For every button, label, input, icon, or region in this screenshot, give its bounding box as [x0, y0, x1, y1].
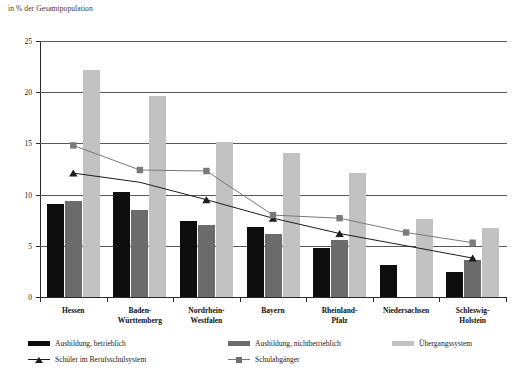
x-axis-label-4: Rheinland-Pfalz — [306, 306, 373, 326]
y-tick-label: 5 — [6, 242, 32, 251]
y-tick-label: 20 — [6, 88, 32, 97]
x-axis-label-6: Schleswig-Holstein — [439, 306, 506, 326]
x-axis-label-3: Bayern — [240, 306, 307, 316]
triangle-icon — [35, 357, 43, 363]
legend-marker-icon — [228, 356, 250, 364]
bar-2 — [265, 234, 282, 297]
x-tick-mark — [107, 298, 108, 302]
bar-1 — [380, 265, 397, 297]
legend-label: Übergangssystem — [419, 339, 472, 348]
y-axis-title: in % der Gesamtpopulation — [8, 4, 93, 13]
legend-marker-icon — [28, 356, 50, 364]
x-tick-mark — [173, 298, 174, 302]
legend-swatch-icon — [392, 341, 414, 346]
x-axis-label-5: Niedersachsen — [373, 306, 440, 316]
x-tick-mark — [306, 298, 307, 302]
bar-2 — [198, 225, 215, 297]
legend-label: Schulabgänger — [255, 355, 300, 364]
x-tick-mark — [40, 298, 41, 302]
x-tick-mark — [240, 298, 241, 302]
bar-2 — [65, 201, 82, 297]
legend-item-2[interactable]: Übergangssystem — [392, 339, 472, 348]
bar-3 — [349, 173, 366, 297]
plot-area — [40, 41, 506, 297]
chart-legend: Ausbildung, betrieblichAusbildung, nicht… — [0, 337, 516, 379]
y-tick-label: 25 — [6, 37, 32, 46]
legend-item-3[interactable]: Schüler im Berufsschulsystem — [28, 355, 146, 364]
legend-item-1[interactable]: Ausbildung, nichtbetrieblich — [228, 339, 341, 348]
x-tick-mark — [373, 298, 374, 302]
y-tick-label: 0 — [6, 293, 32, 302]
legend-label: Ausbildung, nichtbetrieblich — [255, 339, 341, 348]
x-tick-mark — [506, 298, 507, 302]
x-axis-label-0: Hessen — [40, 306, 107, 316]
bar-1 — [247, 227, 264, 297]
legend-swatch-icon — [228, 341, 250, 346]
bar-3 — [283, 153, 300, 297]
bar-3 — [83, 70, 100, 297]
legend-item-0[interactable]: Ausbildung, betrieblich — [28, 339, 126, 348]
bar-1 — [113, 192, 130, 297]
square-icon — [236, 357, 242, 363]
legend-swatch-icon — [28, 341, 50, 346]
bar-3 — [482, 228, 499, 297]
x-axis-label-2: Nordrhein-Westfalen — [173, 306, 240, 326]
bar-1 — [313, 248, 330, 297]
x-axis-line — [40, 297, 507, 298]
chart-container: in % der Gesamtpopulation 0510152025 Hes… — [0, 0, 516, 379]
bar-3 — [149, 96, 166, 297]
y-tick-label: 15 — [6, 139, 32, 148]
bar-2 — [131, 210, 148, 297]
bar-1 — [446, 272, 463, 297]
bar-3 — [416, 219, 433, 297]
legend-label: Ausbildung, betrieblich — [55, 339, 126, 348]
x-axis-label-1: Baden-Württemberg — [107, 306, 174, 326]
x-tick-mark — [439, 298, 440, 302]
legend-item-4[interactable]: Schulabgänger — [228, 355, 300, 364]
legend-label: Schüler im Berufsschulsystem — [55, 355, 146, 364]
bar-2 — [331, 240, 348, 297]
bar-1 — [47, 204, 64, 297]
bar-1 — [180, 221, 197, 297]
bar-2 — [464, 260, 481, 297]
y-tick-label: 10 — [6, 191, 32, 200]
bar-3 — [216, 142, 233, 297]
